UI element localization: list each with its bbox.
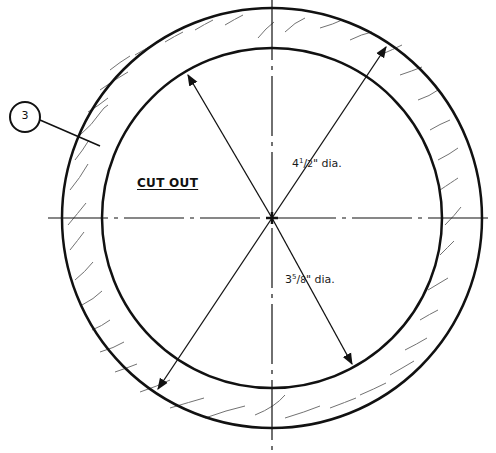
wood-grain-hatching: [68, 15, 461, 418]
center-lines: [48, 0, 492, 453]
cut-out-label: CUT OUT: [137, 176, 198, 190]
inner-diameter-arrow-lower: [272, 218, 352, 364]
outer-diameter-label: 41/2" dia.: [292, 157, 342, 170]
part-callout-number: 3: [10, 102, 40, 132]
outer-diameter-arrow-lower: [158, 218, 272, 389]
ring-drawing: [0, 0, 496, 453]
inner-diameter-arrow-upper: [188, 75, 272, 218]
inner-diameter-label: 35/8" dia.: [285, 273, 335, 286]
outer-diameter-arrow-upper: [272, 47, 386, 218]
